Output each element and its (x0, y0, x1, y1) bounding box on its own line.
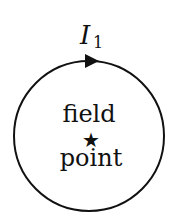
field-label: field (62, 100, 115, 128)
current-label: I (79, 20, 91, 50)
point-label: point (60, 144, 123, 172)
current-loop-diagram: I 1 field ★ point (0, 0, 172, 222)
current-subscript: 1 (93, 33, 103, 52)
current-direction-arrow-icon (85, 54, 99, 68)
